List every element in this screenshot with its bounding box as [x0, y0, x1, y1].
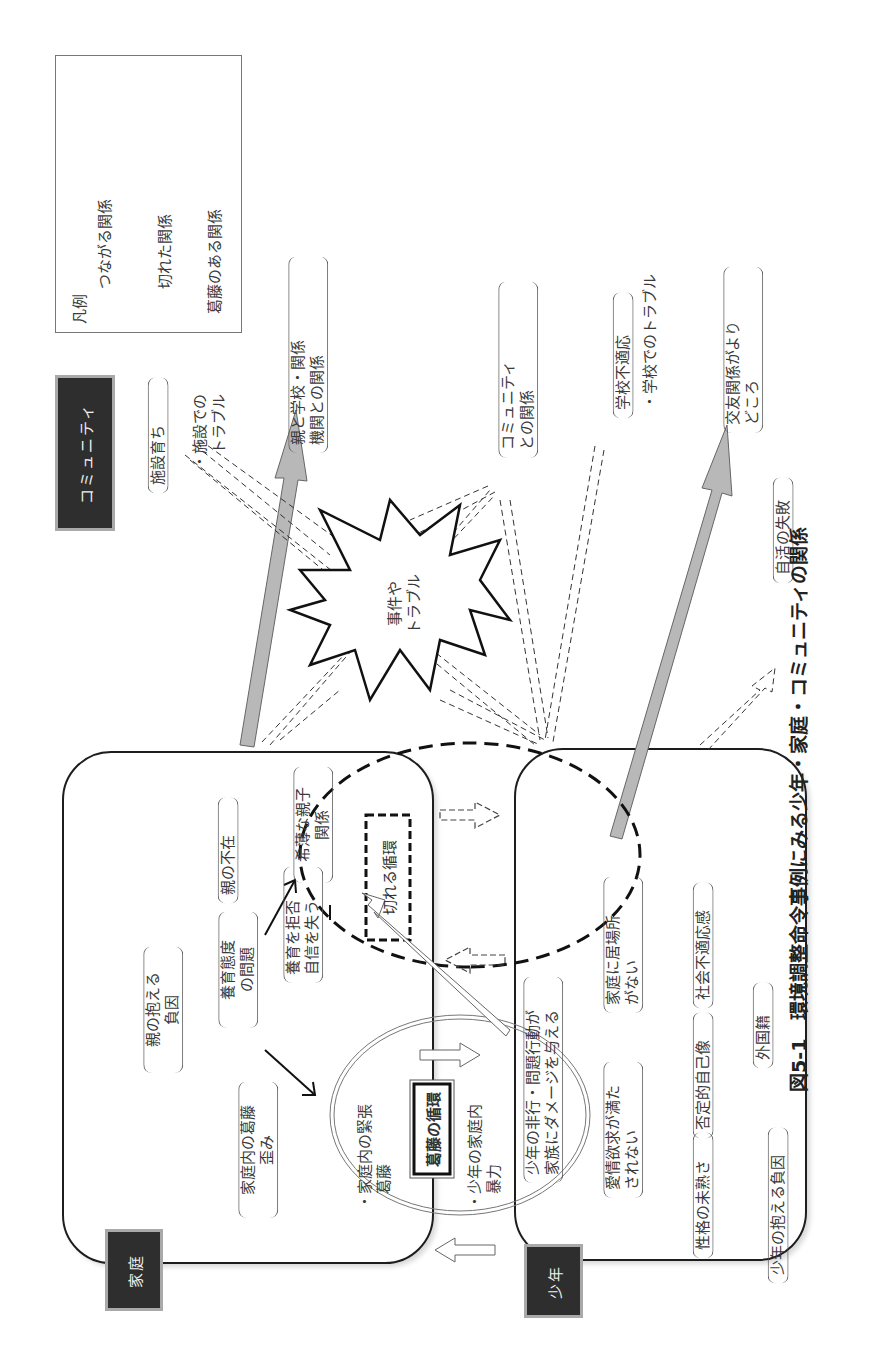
community-item-facility-raised: 施設育ち — [148, 377, 169, 493]
community-item-friends-support: 交友関係がより どころ — [723, 267, 763, 433]
incident-label: 事件や トラブル — [386, 559, 424, 649]
legend-title: 凡例 — [71, 264, 90, 324]
community-item-school-maladjust: 学校不適応 — [613, 292, 634, 418]
community-item-facility-trouble: ・施設での トラブル — [191, 359, 229, 469]
community-section-label: コミュニティ — [58, 378, 112, 528]
juvenile-item-foreign-nationality: 外国籍 — [753, 982, 774, 1068]
family-item-juvenile-violence: ・少年の家庭内 暴力 — [466, 1079, 504, 1209]
juvenile-item-burden: 少年の抱える負因 — [768, 1127, 789, 1283]
juvenile-item-delinquency-damage: 少年の非行・問題行動が 家族にダメージを与える — [523, 977, 563, 1183]
family-item-parent-burden: 親の抱える 負因 — [143, 947, 183, 1073]
family-item-family-conflict: 家庭内の葛藤 歪み — [238, 1082, 278, 1218]
diagram-canvas: 凡例 つながる関係 切れた関係 葛藤のある関係 コミュニティ 家庭 少年 施設育… — [0, 0, 871, 1366]
broken-arrows-family-juvenile — [440, 802, 505, 973]
juvenile-item-no-place-home: 家庭に居場所 がない — [603, 877, 643, 1013]
community-item-school-trouble: ・学校でのトラブル — [641, 249, 660, 409]
family-item-parent-absence: 親の不在 — [218, 797, 239, 903]
family-item-refuse-parenting: 養育を拒否 自信を失う — [283, 867, 323, 983]
family-item-parenting-attitude: 養育態度 の問題 — [218, 912, 258, 1028]
juvenile-item-social-maladjust: 社会不適応感 — [693, 882, 714, 1008]
community-item-parent-school: 親と学校・関係 機関との関係 — [288, 257, 328, 453]
juvenile-section-label: 少年 — [527, 1247, 580, 1315]
juvenile-item-negative-self-image: 否定的自己像 — [693, 1012, 714, 1138]
family-section-label: 家庭 — [108, 1232, 160, 1308]
legend-label-connected: つながる関係 — [96, 179, 115, 289]
juvenile-item-love-unmet: 愛情欲求が満た されない — [603, 1062, 643, 1198]
family-item-weak-relationship: 希薄な親子 関係 — [293, 767, 333, 883]
legend-label-conflict: 葛藤のある関係 — [206, 184, 225, 314]
community-item-community-relation: コミュニティ との関係 — [498, 282, 538, 458]
legend-label-broken: 切れた関係 — [156, 179, 175, 289]
broken-cycle-label: 切れる循環 — [366, 815, 410, 940]
connected-arrow-family-to-school — [240, 410, 307, 747]
juvenile-item-immature-personality: 性格の未熟さ — [693, 1132, 714, 1258]
family-item-family-tension: ・家庭内の緊張 葛藤 — [356, 1079, 394, 1209]
conflict-cycle-label: 葛藤の循環 — [414, 1084, 450, 1174]
figure-caption: 図5-1 環境調整命令事例にみる少年・家庭・コミュニティの関係 — [788, 532, 812, 1092]
